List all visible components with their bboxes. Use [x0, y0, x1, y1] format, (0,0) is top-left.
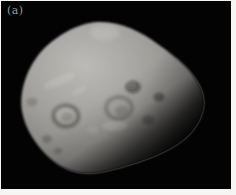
deimos-moon-photo: [1, 1, 231, 189]
panel-label: (a): [7, 4, 24, 18]
photo-frame: (a): [1, 1, 231, 189]
figure-panel: (a): [0, 0, 236, 195]
